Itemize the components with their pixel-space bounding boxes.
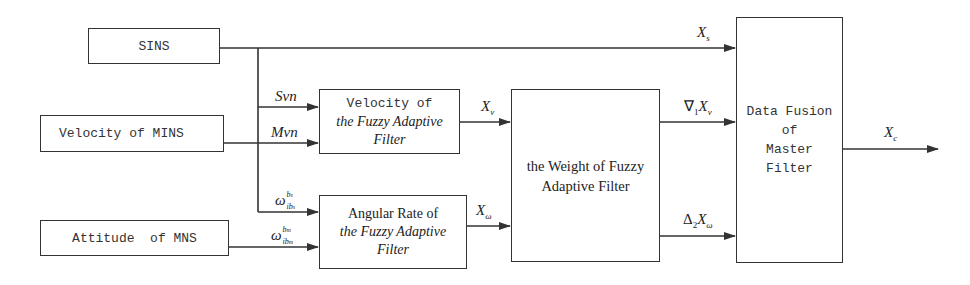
weight-filter-line2: Adaptive Filter <box>541 176 629 196</box>
sins-label: SINS <box>138 39 169 54</box>
label-delta2-xomega: Δ2Xω <box>683 211 713 230</box>
grad1-sub: v <box>708 107 712 117</box>
master-filter-line2: of <box>782 121 798 140</box>
label-xv: Xv <box>481 98 494 117</box>
attitude-mns-box: Attitude of MNS <box>40 220 229 256</box>
master-filter-line3: Master <box>766 140 813 159</box>
attitude-mns-label: Attitude of MNS <box>72 231 197 246</box>
svn-text: Svn <box>275 88 297 104</box>
label-svn: Svn <box>275 88 297 105</box>
velocity-mins-box: Velocity of MINS <box>40 115 224 152</box>
label-omega-s: ω bs ibs <box>275 192 300 209</box>
label-grad1-xv: ∇1Xv <box>684 97 712 117</box>
velocity-filter-line2: the Fuzzy Adaptive <box>336 113 442 131</box>
omega-m-supsub: m <box>287 227 291 233</box>
xomega-sub: ω <box>485 211 491 221</box>
xv-base: X <box>481 98 490 114</box>
angular-filter-line1: Angular Rate of <box>348 205 438 223</box>
delta2-op: Δ <box>683 211 693 227</box>
sins-box: SINS <box>88 28 220 64</box>
xs-base: X <box>697 24 706 40</box>
master-filter-line1: Data Fusion <box>747 102 833 121</box>
delta2-base: X <box>697 211 706 227</box>
angular-filter-line3: Filter <box>377 241 409 259</box>
omega-m-subsub: m <box>289 239 293 245</box>
delta2-sub: ω <box>706 220 712 230</box>
angular-rate-fuzzy-filter-box: Angular Rate of the Fuzzy Adaptive Filte… <box>319 195 467 269</box>
velocity-filter-line1: Velocity of <box>347 95 433 113</box>
omega-m-base: ω <box>271 227 282 243</box>
weight-filter-line1: the Weight of Fuzzy <box>527 156 644 176</box>
omega-s-supsub: s <box>291 192 293 198</box>
xv-sub: v <box>490 107 494 117</box>
velocity-filter-line3: Filter <box>374 131 406 149</box>
label-xomega: Xω <box>476 202 492 221</box>
label-xs: Xs <box>697 24 710 43</box>
mvn-text: Mvn <box>271 124 298 140</box>
omega-s-subsub: s <box>293 204 295 210</box>
master-filter-line4: Filter <box>766 159 813 178</box>
omega-s-base: ω <box>275 192 286 208</box>
master-filter-box: Data Fusion of Master Filter <box>736 17 843 263</box>
label-xc: Xc <box>884 124 897 143</box>
angular-filter-line2: the Fuzzy Adaptive <box>340 223 446 241</box>
xc-base: X <box>884 124 893 140</box>
grad1-op: ∇ <box>684 98 694 114</box>
weight-fuzzy-filter-box: the Weight of Fuzzy Adaptive Filter <box>511 89 660 262</box>
label-omega-m: ω bm ibm <box>271 227 298 244</box>
grad1-base: X <box>699 98 708 114</box>
velocity-fuzzy-filter-box: Velocity of the Fuzzy Adaptive Filter <box>319 89 460 154</box>
xs-sub: s <box>706 33 710 43</box>
label-mvn: Mvn <box>271 124 298 141</box>
velocity-mins-label: Velocity of MINS <box>59 126 184 141</box>
xc-sub: c <box>893 133 897 143</box>
xomega-base: X <box>476 202 485 218</box>
